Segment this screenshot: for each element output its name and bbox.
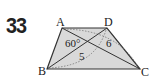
vertex-label-a: A (56, 15, 65, 29)
vertex-label-b: B (38, 64, 46, 77)
trapezoid-figure: A D B C 60° 5 6 (0, 0, 153, 77)
vertex-label-d: D (104, 15, 113, 29)
diagonal-bd-length: 5 (79, 50, 85, 62)
angle-label: 60° (65, 37, 80, 49)
vertex-label-c: C (141, 65, 149, 77)
trapezoid-shape (47, 28, 140, 69)
diagonal-ac-length: 6 (106, 37, 112, 49)
